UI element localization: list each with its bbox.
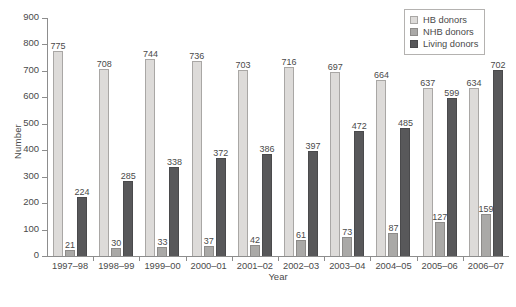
bar-value-label: 73: [342, 228, 352, 237]
bar: 716: [284, 67, 294, 256]
x-axis-tick: [324, 256, 325, 261]
bar: 224: [77, 197, 87, 256]
bar-group: 74433338: [139, 18, 185, 256]
legend-item-label: Living donors: [423, 39, 478, 49]
bar-chart: Number 0100200300400500600700800900 7752…: [0, 0, 516, 307]
legend-item[interactable]: HB donors: [410, 14, 478, 26]
x-axis-tick: [139, 256, 140, 261]
bar-value-label: 285: [121, 172, 136, 181]
bar: 338: [169, 167, 179, 256]
x-axis-tick: [463, 256, 464, 261]
legend-item-label: HB donors: [423, 15, 467, 25]
y-axis-tick-label: 200: [0, 196, 39, 207]
bar-group: 70342386: [232, 18, 278, 256]
bar: 372: [216, 158, 226, 256]
bar-value-label: 697: [328, 63, 343, 72]
x-axis-category-label: 2001–02: [237, 261, 273, 271]
bar-value-label: 127: [432, 213, 447, 222]
x-axis-title: Year: [47, 271, 509, 282]
bar: 708: [99, 69, 109, 256]
legend-item[interactable]: Living donors: [410, 38, 478, 50]
bar-value-label: 703: [235, 61, 250, 70]
x-axis-category-label: 2005–06: [422, 261, 458, 271]
bar: 775: [53, 51, 63, 256]
bar-value-label: 716: [282, 58, 297, 67]
y-axis-tick-label: 700: [0, 64, 39, 75]
bar-value-label: 224: [75, 188, 90, 197]
bar-value-label: 87: [388, 224, 398, 233]
x-axis-tick: [186, 256, 187, 261]
bar-value-label: 61: [296, 231, 306, 240]
y-axis-tick-label: 900: [0, 11, 39, 22]
bar: 703: [238, 70, 248, 256]
bar: 30: [111, 248, 121, 256]
bar-value-label: 386: [259, 145, 274, 154]
bar: 736: [192, 61, 202, 256]
bar: 485: [400, 128, 410, 256]
bar-value-label: 485: [398, 119, 413, 128]
bar-value-label: 338: [167, 158, 182, 167]
bar: 87: [388, 233, 398, 256]
x-axis-category-label: 1999–00: [144, 261, 180, 271]
bar: 33: [157, 247, 167, 256]
bar-value-label: 37: [204, 237, 214, 246]
y-axis-tick-label: 800: [0, 37, 39, 48]
legend-swatch-icon: [410, 40, 418, 48]
bar: 42: [250, 245, 260, 256]
bar-value-label: 664: [374, 71, 389, 80]
bar-group: 69773472: [324, 18, 370, 256]
bar-group: 73637372: [186, 18, 232, 256]
x-axis-tick: [232, 256, 233, 261]
bar: 21: [65, 250, 75, 256]
bar-value-label: 599: [444, 89, 459, 98]
bar: 634: [469, 88, 479, 256]
bar: 61: [296, 240, 306, 256]
bar-value-label: 702: [490, 61, 505, 70]
bar-group: 77521224: [47, 18, 93, 256]
y-axis-tick-label: 300: [0, 170, 39, 181]
x-axis-tick: [370, 256, 371, 261]
legend-item[interactable]: NHB donors: [410, 26, 478, 38]
bar-value-label: 372: [213, 149, 228, 158]
bar-value-label: 775: [51, 42, 66, 51]
bar-value-label: 736: [189, 52, 204, 61]
bar: 637: [423, 88, 433, 256]
bar: 599: [447, 98, 457, 256]
bar: 386: [262, 154, 272, 256]
bar: 702: [493, 70, 503, 256]
bar-value-label: 634: [466, 79, 481, 88]
legend: HB donorsNHB donorsLiving donors: [404, 9, 485, 55]
y-axis-tick-label: 600: [0, 90, 39, 101]
bar-value-label: 21: [65, 241, 75, 250]
bar: 37: [204, 246, 214, 256]
bar: 159: [481, 214, 491, 256]
legend-swatch-icon: [410, 16, 418, 24]
bar-value-label: 30: [111, 239, 121, 248]
y-axis-tick: 0: [42, 256, 47, 257]
y-axis-tick-label: 400: [0, 143, 39, 154]
bar-value-label: 744: [143, 50, 158, 59]
x-axis-category-label: 2006–07: [468, 261, 504, 271]
bar-value-label: 42: [250, 236, 260, 245]
x-axis-category-label: 2004–05: [375, 261, 411, 271]
y-axis-tick-label: 0: [0, 249, 39, 260]
x-axis-tick: [417, 256, 418, 261]
x-axis-category-label: 2002–03: [283, 261, 319, 271]
bar: 472: [354, 131, 364, 256]
x-axis-tick: [278, 256, 279, 261]
bar: 664: [376, 80, 386, 256]
bar-value-label: 472: [352, 122, 367, 131]
bar-group: 70830285: [93, 18, 139, 256]
legend-swatch-icon: [410, 28, 418, 36]
bar: 397: [308, 151, 318, 256]
y-axis-tick-label: 500: [0, 117, 39, 128]
x-axis-tick: [93, 256, 94, 261]
y-axis-tick-label: 100: [0, 223, 39, 234]
bar-group: 71661397: [278, 18, 324, 256]
x-axis-category-label: 2003–04: [329, 261, 365, 271]
bar: 744: [145, 59, 155, 256]
bar: 73: [342, 237, 352, 256]
bar-value-label: 708: [97, 60, 112, 69]
bar-value-label: 397: [306, 142, 321, 151]
bar-value-label: 637: [420, 79, 435, 88]
